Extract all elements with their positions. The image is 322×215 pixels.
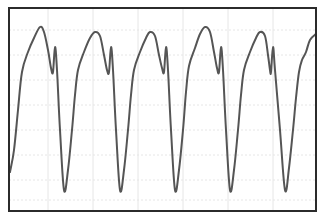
chart-grid [9, 8, 316, 211]
waveform-chart [0, 0, 322, 215]
waveform-trace [10, 27, 316, 192]
chart-frame [9, 8, 316, 211]
